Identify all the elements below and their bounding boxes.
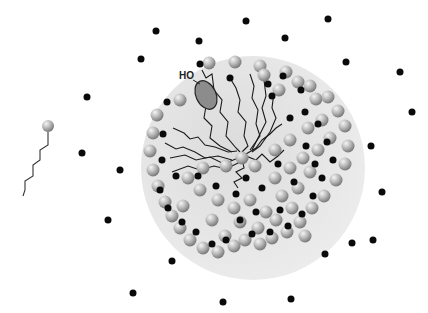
headgroup-sphere <box>342 140 355 153</box>
counterion-dot <box>159 157 166 164</box>
headgroup-sphere <box>269 144 282 157</box>
headgroup-sphere <box>302 122 315 135</box>
counterion-dot <box>325 16 332 23</box>
headgroup-sphere <box>284 134 297 147</box>
headgroup-sphere <box>244 194 257 207</box>
headgroup-sphere <box>294 216 307 229</box>
counterion-dot <box>280 73 287 80</box>
counterion-dot <box>379 189 386 196</box>
counterion-dot <box>310 193 317 200</box>
counterion-dot <box>368 143 375 150</box>
headgroup-sphere <box>312 144 325 157</box>
headgroup-sphere <box>339 120 352 133</box>
counterion-dot <box>275 161 282 168</box>
free-surfactant-monomer <box>23 120 54 196</box>
counterion-dot <box>173 173 180 180</box>
headgroup-sphere <box>339 158 352 171</box>
headgroup-sphere <box>284 162 297 175</box>
counterion-dot <box>237 217 244 224</box>
counterion-dot <box>285 223 292 230</box>
headgroup-sphere <box>184 234 197 247</box>
counterion-dot <box>302 109 309 116</box>
counterion-dot <box>409 109 416 116</box>
counterion-dot <box>322 251 329 258</box>
counterion-dot <box>153 28 160 35</box>
headgroup-sphere <box>147 127 160 140</box>
counterion-dot <box>397 69 404 76</box>
counterion-dot <box>282 35 289 42</box>
counterion-dot <box>243 18 250 25</box>
headgroup-sphere <box>276 190 289 203</box>
counterion-dot <box>303 143 310 150</box>
counterion-dot <box>138 56 145 63</box>
headgroup-sphere <box>228 202 241 215</box>
counterion-dot <box>169 258 176 265</box>
counterion-dot <box>213 183 220 190</box>
counterion-dot <box>259 185 266 192</box>
hydroxyl-label: HO <box>179 70 194 81</box>
headgroup-sphere <box>270 214 283 227</box>
headgroup-sphere <box>310 93 323 106</box>
headgroup-sphere <box>212 194 225 207</box>
micelle-diagram <box>0 0 428 313</box>
counterion-dot <box>164 99 171 106</box>
headgroup-sphere <box>306 202 319 215</box>
headgroup-sphere <box>228 240 241 253</box>
headgroup-sphere <box>182 172 195 185</box>
headgroup-sphere <box>299 230 312 243</box>
counterion-dot <box>287 115 294 122</box>
headgroup-sphere <box>236 152 249 165</box>
headgroup-sphere <box>229 56 242 69</box>
counterion-dot <box>253 209 260 216</box>
counterion-dot <box>79 150 86 157</box>
counterion-dot <box>298 87 305 94</box>
counterion-dot <box>117 167 124 174</box>
headgroup-sphere <box>297 152 310 165</box>
headgroup-sphere <box>144 145 157 158</box>
headgroup-sphere <box>322 91 335 104</box>
counterion-dot <box>233 191 240 198</box>
headgroup-sphere <box>194 184 207 197</box>
headgroup-sphere <box>254 238 267 251</box>
counterion-dot <box>220 299 227 306</box>
counterion-dot <box>312 161 319 168</box>
counterion-dot <box>227 75 234 82</box>
counterion-dot <box>291 179 298 186</box>
counterion-dot <box>330 157 337 164</box>
counterion-dot <box>349 240 356 247</box>
headgroup-sphere <box>151 109 164 122</box>
counterion-dot <box>343 59 350 66</box>
counterion-dot <box>249 231 256 238</box>
counterion-dot <box>319 175 326 182</box>
headgroup-sphere <box>220 160 233 173</box>
counterion-dot <box>299 211 306 218</box>
counterion-dot <box>196 38 203 45</box>
counterion-dot <box>157 187 164 194</box>
headgroup-sphere <box>206 214 219 227</box>
counterion-dot <box>209 241 216 248</box>
monomer-tail <box>23 132 48 196</box>
counterion-dot <box>105 217 112 224</box>
headgroup-sphere <box>286 202 299 215</box>
counterion-dot <box>324 139 331 146</box>
counterion-dot <box>193 229 200 236</box>
counterion-dot <box>165 205 172 212</box>
headgroup-sphere <box>249 160 262 173</box>
counterion-dot <box>243 175 250 182</box>
monomer-head <box>42 120 54 132</box>
counterion-dot <box>195 173 202 180</box>
headgroup-sphere <box>304 80 317 93</box>
counterion-dot <box>160 131 167 138</box>
headgroup-sphere <box>292 76 305 89</box>
headgroup-sphere <box>197 242 210 255</box>
headgroup-sphere <box>332 105 345 118</box>
headgroup-sphere <box>147 164 160 177</box>
counterion-dot <box>265 81 272 88</box>
counterion-dot <box>130 290 137 297</box>
counterion-dot <box>84 94 91 101</box>
counterion-dot <box>179 219 186 226</box>
counterion-dot <box>370 237 377 244</box>
counterion-dot <box>223 237 230 244</box>
headgroup-sphere <box>203 57 216 70</box>
headgroup-sphere <box>318 190 331 203</box>
